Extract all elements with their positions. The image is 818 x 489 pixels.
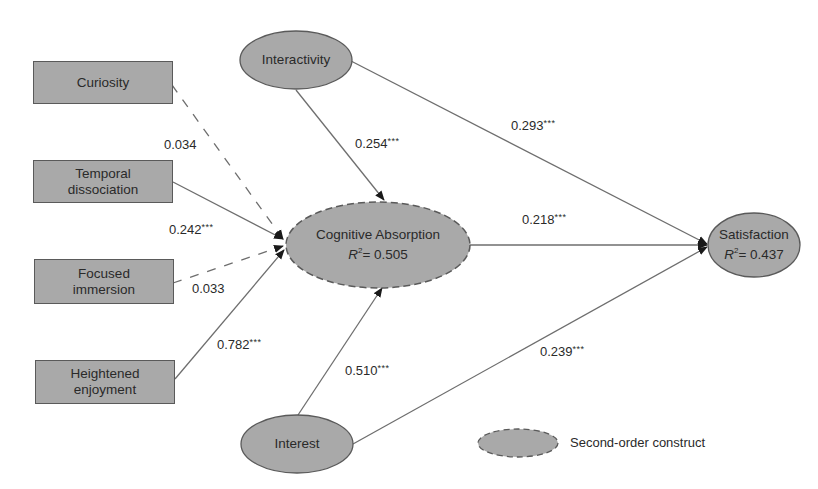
coef-value: 0.782 bbox=[217, 337, 250, 352]
significance-stars: *** bbox=[555, 212, 567, 222]
coef-value: 0.239 bbox=[540, 344, 573, 359]
node-heightened-enjoyment-line2: enjoyment bbox=[74, 382, 136, 398]
path-interest-to-cognitive-absorption bbox=[298, 288, 382, 415]
coef-value: 0.034 bbox=[164, 137, 197, 152]
path-heightened-enjoyment-to-cognitive-absorption bbox=[175, 250, 284, 379]
coef-value: 0.510 bbox=[345, 363, 378, 378]
significance-stars: *** bbox=[378, 363, 390, 373]
coef-interactivity-to-satisfaction: 0.293*** bbox=[511, 118, 556, 133]
node-temporal-dissociation-line1: Temporal bbox=[75, 166, 131, 182]
coef-value: 0.218 bbox=[522, 212, 555, 227]
significance-stars: *** bbox=[573, 344, 585, 354]
node-satisfaction bbox=[708, 213, 800, 277]
significance-stars: *** bbox=[388, 136, 400, 146]
legend-second-order-symbol bbox=[478, 429, 558, 457]
node-interactivity bbox=[240, 31, 352, 89]
significance-stars: *** bbox=[544, 118, 556, 128]
coef-value: 0.033 bbox=[192, 281, 225, 296]
node-heightened-enjoyment-line1: Heightened bbox=[70, 366, 139, 382]
node-focused-immersion: Focused immersion bbox=[34, 259, 174, 304]
coef-interactivity-to-ca: 0.254*** bbox=[355, 136, 400, 151]
coef-focused-immersion: 0.033 bbox=[192, 281, 225, 296]
node-curiosity-label: Curiosity bbox=[77, 75, 130, 91]
node-focused-immersion-line2: immersion bbox=[73, 282, 135, 298]
coef-interest-to-satisfaction: 0.239*** bbox=[540, 344, 585, 359]
node-curiosity: Curiosity bbox=[33, 61, 173, 104]
coef-interest-to-ca: 0.510*** bbox=[345, 363, 390, 378]
path-curiosity-to-cognitive-absorption bbox=[172, 85, 283, 239]
coef-heightened-enjoyment: 0.782*** bbox=[217, 337, 262, 352]
coef-temporal-dissociation: 0.242*** bbox=[169, 222, 214, 237]
significance-stars: *** bbox=[202, 222, 214, 232]
significance-stars: *** bbox=[250, 337, 262, 347]
path-focused-immersion-to-cognitive-absorption bbox=[173, 246, 283, 283]
coef-curiosity: 0.034 bbox=[164, 137, 197, 152]
coef-value: 0.293 bbox=[511, 118, 544, 133]
coef-ca-to-satisfaction: 0.218*** bbox=[522, 212, 567, 227]
coef-value: 0.254 bbox=[355, 136, 388, 151]
node-cognitive-absorption bbox=[286, 202, 470, 288]
node-interest bbox=[241, 415, 353, 473]
node-temporal-dissociation: Temporal dissociation bbox=[33, 160, 173, 203]
coef-value: 0.242 bbox=[169, 222, 202, 237]
node-temporal-dissociation-line2: dissociation bbox=[68, 182, 139, 198]
legend-label: Second-order construct bbox=[570, 435, 705, 450]
node-heightened-enjoyment: Heightened enjoyment bbox=[35, 360, 175, 404]
node-focused-immersion-line1: Focused bbox=[78, 266, 130, 282]
